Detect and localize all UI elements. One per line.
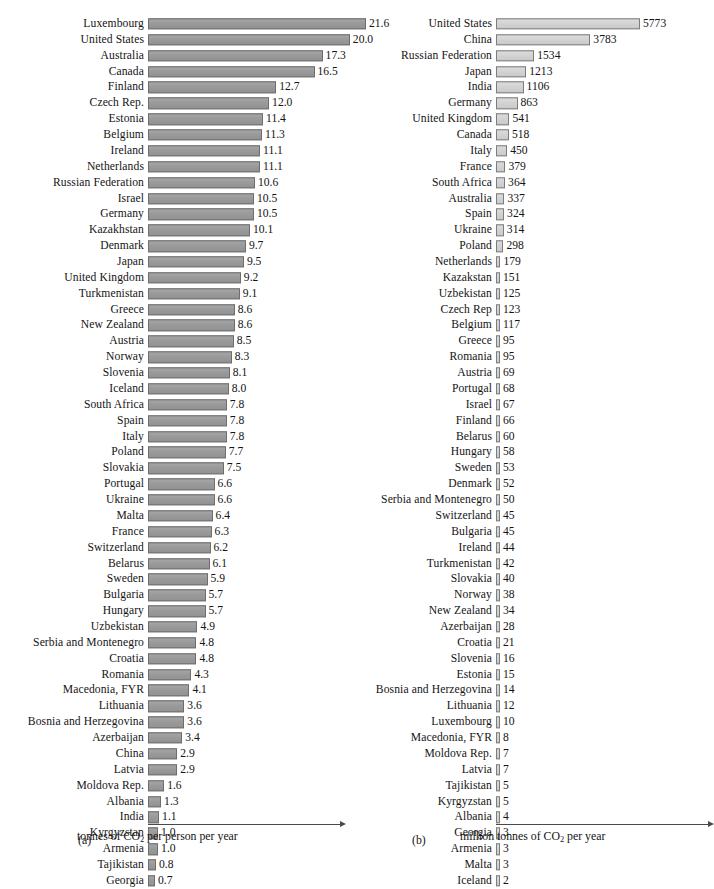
category-label: Croatia [0,653,148,665]
category-label: Russian Federation [348,50,496,62]
value-label: 298 [503,240,523,252]
chart-row: Albania4 [348,810,696,826]
chart-b-axis-line [496,824,708,825]
value-label: 52 [500,478,515,490]
category-label: Romania [348,351,496,363]
chart-row: Estonia11.4 [0,111,348,127]
chart-row: Moldova Rep.1.6 [0,778,348,794]
value-label: 8 [500,732,509,744]
value-label: 16.5 [315,66,338,78]
chart-row: India1106 [348,79,696,95]
category-label: Turkmenistan [0,288,148,300]
value-bar [148,812,159,823]
value-bar [148,304,235,315]
value-label: 38 [500,589,515,601]
chart-row: New Zealand34 [348,603,696,619]
value-label: 4.9 [197,621,215,633]
value-label: 11.1 [260,145,283,157]
category-label: Azerbaijan [0,732,148,744]
value-label: 95 [500,335,515,347]
chart-row: Netherlands11.1 [0,159,348,175]
value-label: 125 [500,288,520,300]
value-label: 95 [500,351,515,363]
value-bar [148,367,230,378]
value-bar [148,272,241,283]
category-label: Latvia [0,764,148,776]
chart-row: Romania4.3 [0,667,348,683]
category-label: Sweden [348,462,496,474]
value-bar [148,193,254,204]
chart-a-axis-arrow-icon [340,821,346,827]
category-label: Denmark [348,478,496,490]
chart-row: Austria69 [348,365,696,381]
category-label: Portugal [0,478,148,490]
value-label: 10 [500,716,515,728]
value-label: 15 [500,669,515,681]
chart-row: Lithuania3.6 [0,698,348,714]
value-label: 2 [500,875,509,887]
chart-row: Sweden53 [348,460,696,476]
chart-row: France379 [348,159,696,175]
value-label: 1534 [534,50,560,62]
value-bar [496,177,505,188]
value-bar [148,669,191,680]
value-label: 541 [509,113,529,125]
value-label: 7.8 [227,415,245,427]
category-label: Netherlands [0,161,148,173]
category-label: Australia [0,50,148,62]
chart-row: Portugal6.6 [0,476,348,492]
category-label: Netherlands [348,256,496,268]
value-label: 337 [504,193,524,205]
chart-row: Macedonia, FYR8 [348,730,696,746]
value-label: 0.8 [156,859,174,871]
chart-row: Italy7.8 [0,429,348,445]
chart-row: Netherlands179 [348,254,696,270]
caption-a-sub: 2 [140,835,144,844]
value-bar [496,66,526,77]
chart-row: Bulgaria5.7 [0,587,348,603]
category-label: Serbia and Montenegro [348,494,496,506]
category-label: Estonia [0,113,148,125]
value-label: 117 [500,319,520,331]
value-bar [496,98,518,109]
chart-row: Czech Rep.12.0 [0,95,348,111]
category-label: Croatia [348,637,496,649]
category-label: Bosnia and Herzegovina [0,716,148,728]
value-label: 5773 [640,18,666,30]
chart-row: Slovenia16 [348,651,696,667]
chart-b-axis-caption: million tonnes of CO2 per year [460,829,605,844]
chart-row: Croatia4.8 [0,651,348,667]
category-label: New Zealand [0,319,148,331]
category-label: Ireland [0,145,148,157]
chart-row: Norway38 [348,587,696,603]
category-label: Belarus [0,558,148,570]
value-label: 3 [500,859,509,871]
value-bar [148,50,323,61]
chart-row: Greece95 [348,333,696,349]
category-label: Uzbekistan [348,288,496,300]
category-label: Austria [348,367,496,379]
category-label: Macedonia, FYR [348,732,496,744]
category-label: Belgium [0,129,148,141]
category-label: South Africa [348,177,496,189]
chart-b-axis-arrow-icon [708,821,714,827]
value-label: 5 [500,780,509,792]
chart-row: Ireland11.1 [0,143,348,159]
value-bar [148,399,227,410]
value-label: 10.5 [254,208,277,220]
value-label: 379 [505,161,525,173]
value-bar [148,701,184,712]
value-label: 324 [504,208,524,220]
category-label: Slovenia [0,367,148,379]
value-label: 8.5 [234,335,252,347]
chart-row: Latvia2.9 [0,762,348,778]
chart-row: South Africa364 [348,175,696,191]
value-bar [496,225,504,236]
category-label: Australia [348,193,496,205]
chart-row: Japan1213 [348,64,696,80]
value-label: 5 [500,796,509,808]
category-label: Luxembourg [0,18,148,30]
category-label: Tajikistan [348,780,496,792]
value-bar [496,193,504,204]
category-label: United States [0,34,148,46]
